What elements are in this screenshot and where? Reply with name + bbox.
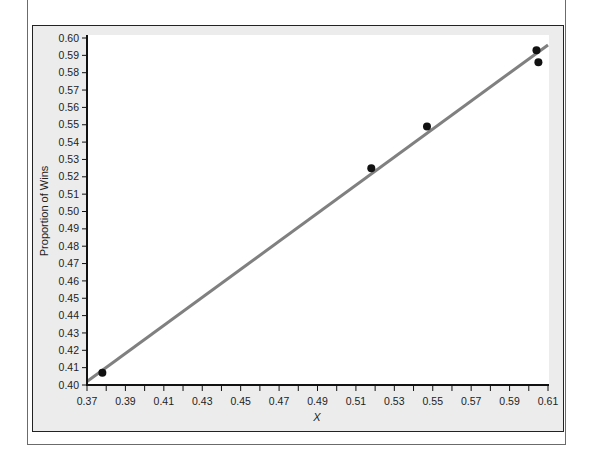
data-point — [98, 369, 106, 377]
y-tick-label: 0.55 — [59, 118, 80, 130]
x-tick-label: 0.41 — [154, 395, 175, 407]
y-tick-label: 0.40 — [59, 379, 80, 391]
x-axis-ticks: 0.370.390.410.430.450.470.490.510.530.55… — [77, 385, 559, 407]
y-tick-label: 0.43 — [59, 327, 80, 339]
y-tick-label: 0.56 — [59, 101, 80, 113]
y-tick-label: 0.52 — [59, 170, 80, 182]
y-axis-ticks: 0.400.410.420.430.440.450.460.470.480.49… — [59, 32, 87, 391]
y-tick-label: 0.59 — [59, 49, 80, 61]
x-tick-label: 0.51 — [346, 395, 367, 407]
x-tick-label: 0.47 — [269, 395, 290, 407]
y-tick-label: 0.49 — [59, 222, 80, 234]
y-tick-label: 0.57 — [59, 84, 80, 96]
y-tick-label: 0.53 — [59, 153, 80, 165]
x-tick-label: 0.61 — [538, 395, 559, 407]
x-tick-label: 0.55 — [423, 395, 444, 407]
scatter-chart: 0.400.410.420.430.440.450.460.470.480.49… — [0, 0, 593, 462]
y-tick-label: 0.42 — [59, 344, 80, 356]
x-tick-label: 0.37 — [77, 395, 98, 407]
y-tick-label: 0.47 — [59, 257, 80, 269]
x-tick-label: 0.57 — [461, 395, 482, 407]
x-tick-label: 0.59 — [499, 395, 520, 407]
y-tick-label: 0.50 — [59, 205, 80, 217]
x-tick-label: 0.49 — [307, 395, 328, 407]
data-point — [367, 164, 375, 172]
y-tick-label: 0.45 — [59, 292, 80, 304]
y-axis-title: Proportion of Wins — [38, 165, 50, 256]
y-tick-label: 0.41 — [59, 361, 80, 373]
y-tick-label: 0.60 — [59, 32, 80, 44]
y-tick-label: 0.48 — [59, 240, 80, 252]
x-tick-label: 0.43 — [192, 395, 213, 407]
data-point — [423, 122, 431, 130]
y-tick-label: 0.44 — [59, 309, 80, 321]
x-tick-label: 0.39 — [115, 395, 136, 407]
data-point — [534, 58, 542, 66]
data-point — [532, 46, 540, 54]
x-axis-title: X — [312, 411, 321, 423]
x-tick-label: 0.45 — [230, 395, 251, 407]
y-tick-label: 0.51 — [59, 188, 80, 200]
y-tick-label: 0.58 — [59, 66, 80, 78]
y-tick-label: 0.46 — [59, 275, 80, 287]
y-tick-label: 0.54 — [59, 136, 80, 148]
x-tick-label: 0.53 — [384, 395, 405, 407]
